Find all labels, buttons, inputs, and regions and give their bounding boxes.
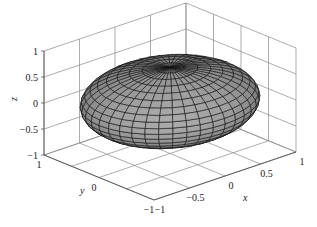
surface-face bbox=[146, 115, 160, 122]
y-tick-label: −1 bbox=[144, 204, 155, 215]
surface-face bbox=[173, 114, 187, 122]
y-axis-line bbox=[44, 155, 154, 200]
x-tick-label: 1 bbox=[300, 156, 305, 167]
surface-face bbox=[159, 134, 173, 140]
z-tick-label: 0.5 bbox=[26, 72, 39, 83]
z-tick-label: −1 bbox=[27, 150, 38, 161]
surface-face bbox=[159, 128, 173, 134]
z-tick-label: 1 bbox=[33, 46, 38, 57]
z-tick-label: 0 bbox=[33, 98, 38, 109]
surface-face bbox=[161, 100, 172, 108]
x-tick-label: −1 bbox=[155, 204, 166, 215]
surface-face bbox=[172, 100, 184, 108]
z-tick-label: −0.5 bbox=[20, 124, 38, 135]
surface-face bbox=[159, 115, 172, 122]
surface-face bbox=[148, 108, 161, 116]
surface-face bbox=[163, 86, 171, 93]
surface-face bbox=[162, 93, 172, 101]
x-axis-label: x bbox=[242, 192, 248, 203]
surface-face bbox=[145, 129, 159, 135]
surface-face bbox=[150, 101, 162, 109]
surface-face bbox=[145, 134, 159, 139]
surface-face bbox=[172, 92, 182, 100]
y-axis-label: y bbox=[79, 185, 85, 196]
z-axis-label: z bbox=[8, 97, 19, 102]
surface-face bbox=[145, 139, 159, 143]
y-tick-label: 0 bbox=[92, 182, 97, 193]
x-axis-line bbox=[154, 152, 296, 200]
surface-face bbox=[145, 122, 159, 129]
ellipsoid-surface-plot: −1−0.500.51−101−1−0.500.51 x y z bbox=[0, 0, 317, 227]
x-tick-label: 0.5 bbox=[260, 168, 273, 179]
surface-face bbox=[159, 122, 173, 129]
surface-face bbox=[160, 108, 173, 116]
x-tick-label: −0.5 bbox=[186, 192, 204, 203]
surface-face bbox=[134, 114, 148, 122]
x-tick-label: 0 bbox=[229, 180, 234, 191]
ellipsoid-surface bbox=[80, 54, 260, 148]
